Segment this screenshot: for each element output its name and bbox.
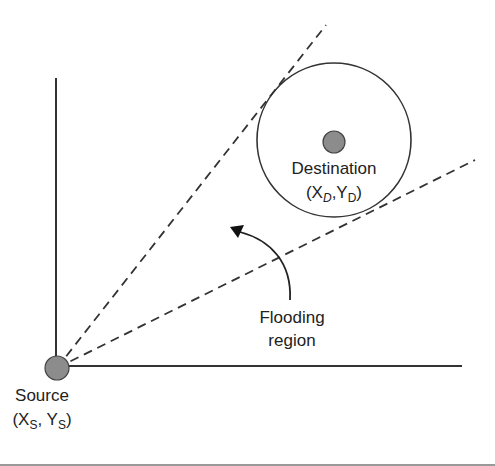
destination-label: Destination — [291, 159, 376, 178]
region-label-line2: region — [268, 331, 315, 350]
flooding-region-diagram: Destination (XD,YD) Flooding region Sour… — [0, 0, 495, 466]
destination-coords: (XD,YD) — [306, 183, 362, 205]
curved-arrow — [240, 232, 290, 300]
lower-boundary-line — [57, 160, 475, 368]
destination-node — [323, 131, 345, 153]
source-node — [45, 356, 69, 380]
source-coords: (XS, YS) — [12, 410, 71, 432]
source-label: Source — [15, 386, 69, 405]
arrowhead-icon — [230, 225, 244, 238]
region-label-line1: Flooding — [259, 308, 324, 327]
